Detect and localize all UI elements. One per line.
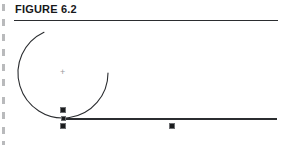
figure-page: FIGURE 6.2 +	[0, 0, 287, 145]
center-point-icon: +	[60, 68, 65, 77]
handle-line-midpoint[interactable]	[169, 123, 175, 129]
figure-drawing	[0, 0, 287, 145]
handle-arc-tangent-upper[interactable]	[60, 107, 66, 113]
handle-line-start-lower[interactable]	[60, 123, 66, 129]
handle-line-start[interactable]	[61, 116, 66, 121]
